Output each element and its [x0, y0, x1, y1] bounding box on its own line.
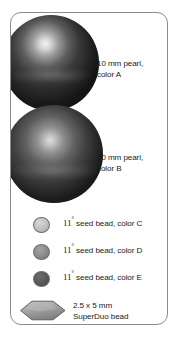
legend-label-seed-d: 11° seed bead, color D	[63, 245, 142, 257]
seed-bead-swatch-e	[33, 271, 50, 287]
legend-panel: 10 mm pearl, color A 10 mm pearl, color …	[10, 12, 168, 325]
legend-label-seed-c: 11° seed bead, color C	[63, 218, 142, 230]
bead-legend-figure: 10 mm pearl, color A 10 mm pearl, color …	[0, 0, 179, 339]
legend-label-seed-d-text: seed bead, color D	[74, 246, 142, 255]
large-pearl-swatch-b	[10, 105, 103, 203]
legend-label-pearl-b: 10 mm pearl, color B	[97, 153, 143, 174]
legend-label-pearl-a-line2: color A	[97, 70, 143, 81]
large-pearl-swatch-a	[10, 15, 99, 111]
legend-label-seed-e: 11° seed bead, color E	[63, 272, 142, 284]
legend-label-superduo: 2.5 x 5 mm SuperDuo bead	[73, 301, 128, 322]
legend-label-pearl-b-line1: 10 mm pearl,	[97, 153, 143, 164]
legend-label-pearl-a: 10 mm pearl, color A	[97, 59, 143, 80]
seed-bead-swatch-d	[33, 244, 50, 260]
legend-label-superduo-line1: 2.5 x 5 mm	[73, 301, 128, 312]
seed-bead-swatch-c	[33, 217, 50, 233]
legend-label-pearl-a-line1: 10 mm pearl,	[97, 59, 143, 70]
superduo-bead-swatch	[19, 299, 67, 322]
legend-label-seed-c-text: seed bead, color C	[74, 219, 142, 228]
legend-label-seed-e-text: seed bead, color E	[74, 273, 142, 282]
legend-label-pearl-b-line2: color B	[97, 164, 143, 175]
legend-label-superduo-line2: SuperDuo bead	[73, 312, 128, 323]
